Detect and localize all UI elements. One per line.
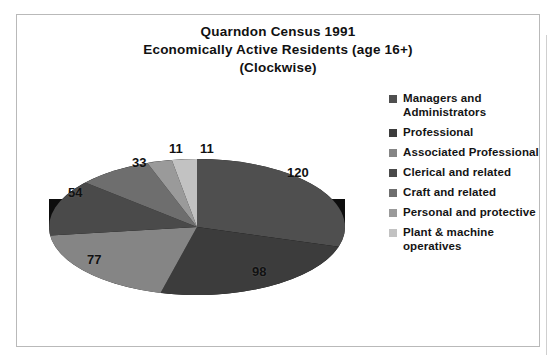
legend-item-label: Plant & machine operatives [403,225,539,253]
legend-swatch-icon [389,95,397,103]
legend-item-label: Craft and related [403,185,496,199]
legend-swatch-icon [389,149,397,157]
legend-divider [546,35,547,355]
legend-item[interactable]: Professional [389,125,539,139]
pie-chart: 120987754331111 [19,87,379,337]
chart-title-line-2: Economically Active Residents (age 16+) [17,41,539,59]
legend-item[interactable]: Plant & machine operatives [389,225,539,253]
pie-slice-value-label: 77 [87,252,101,267]
chart-title: Quarndon Census 1991 Economically Active… [17,23,539,77]
chart-page: Quarndon Census 1991 Economically Active… [0,0,557,364]
legend-item-label: Managers and Administrators [403,91,539,119]
legend-item[interactable]: Personal and protective [389,205,539,219]
chart-title-line-1: Quarndon Census 1991 [17,23,539,41]
pie-slice-value-label: 11 [200,141,214,156]
pie-slice-value-label: 120 [287,165,309,180]
chart-frame: Quarndon Census 1991 Economically Active… [16,14,540,347]
legend-item[interactable]: Managers and Administrators [389,91,539,119]
pie-slice-value-label: 33 [132,155,146,170]
pie-slice-value-label: 98 [252,264,266,279]
legend-swatch-icon [389,129,397,137]
legend-swatch-icon [389,209,397,217]
legend-swatch-icon [389,229,397,237]
legend-item[interactable]: Associated Professional [389,145,539,159]
legend-swatch-icon [389,169,397,177]
legend-item-label: Associated Professional [403,145,539,159]
legend-item[interactable]: Clerical and related [389,165,539,179]
pie-slice-value-label: 54 [68,185,82,200]
pie-slice-value-label: 11 [169,141,183,156]
legend-item-label: Personal and protective [403,205,536,219]
legend-item[interactable]: Craft and related [389,185,539,199]
legend-item-label: Professional [403,125,473,139]
legend-swatch-icon [389,189,397,197]
chart-title-line-3: (Clockwise) [17,59,539,77]
pie-chart-svg [19,87,379,337]
chart-legend: Managers and AdministratorsProfessionalA… [389,91,539,259]
legend-item-label: Clerical and related [403,165,511,179]
